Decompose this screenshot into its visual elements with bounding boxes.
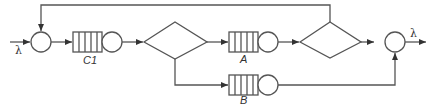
queue-b (229, 75, 278, 95)
join-node-2 (385, 32, 405, 52)
edge-feedback (41, 5, 330, 31)
queueing-network-diagram: λ C1 A B λ (0, 0, 436, 105)
diagram-svg: λ C1 A B λ (0, 0, 436, 105)
split-node-2 (300, 22, 361, 58)
edge-b-join2 (278, 53, 395, 85)
queue-a (229, 32, 278, 52)
departure-rate-label: λ (410, 27, 417, 40)
queue-a-label: A (239, 53, 247, 65)
join-node-1 (31, 32, 51, 52)
split-node-1 (144, 22, 207, 59)
queue-b-label: B (240, 94, 247, 105)
queue-c1-label: C1 (83, 54, 97, 66)
queue-c1 (73, 32, 122, 52)
edge-split1-b (175, 59, 228, 85)
arrival-rate-label: λ (15, 44, 22, 57)
